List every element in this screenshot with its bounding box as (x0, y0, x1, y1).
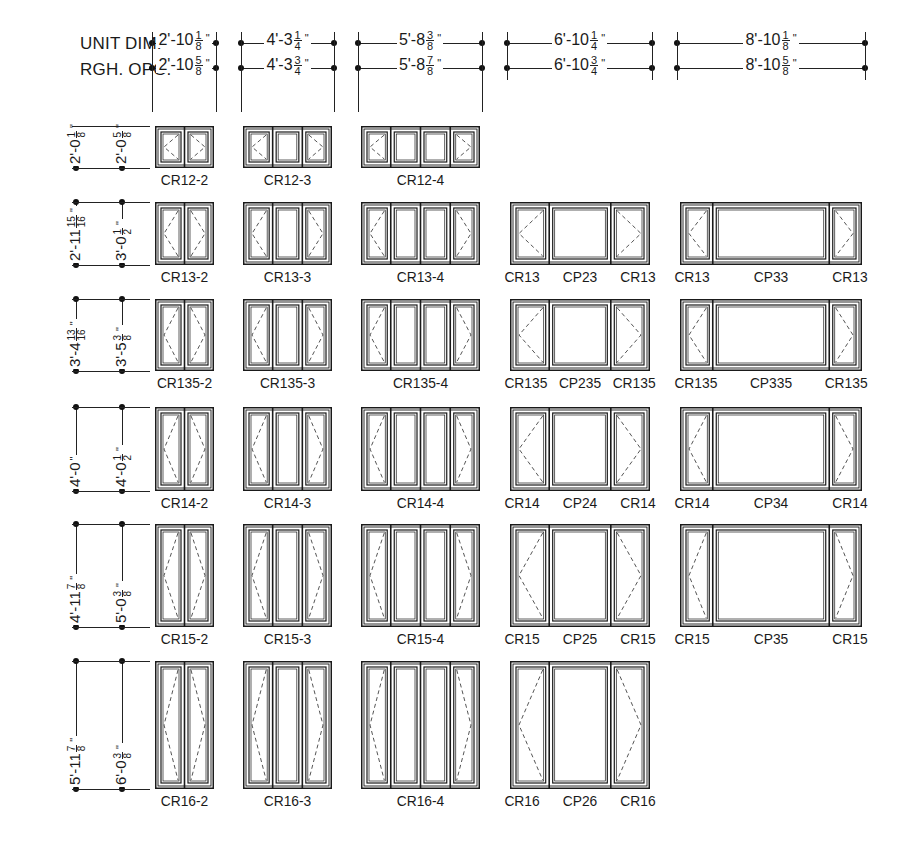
fraction-denominator: 8 (123, 131, 132, 139)
extension-line (72, 126, 150, 127)
extension-line (72, 168, 150, 169)
extension-line (358, 32, 359, 112)
window-elevation[interactable] (361, 202, 480, 265)
combination-window-elevation[interactable] (680, 524, 862, 627)
inch-mark: " (114, 447, 126, 451)
casement-unit-label: CR135 (812, 374, 867, 391)
casement-unit-label: CR14 (600, 494, 655, 511)
combination-window-elevation[interactable] (510, 407, 650, 491)
window-elevation[interactable] (155, 407, 214, 491)
fraction-denominator: 16 (77, 328, 86, 341)
window-elevation[interactable] (155, 299, 214, 371)
dimension-whole: 6'-10 (554, 31, 589, 48)
fraction-denominator: 8 (77, 583, 86, 591)
dimension-whole: 5'-8 (399, 31, 425, 48)
column-unit-dimension: 2'-1018" (152, 30, 216, 51)
window-elevation[interactable] (155, 126, 214, 168)
extension-line (152, 32, 153, 112)
window-elevation[interactable] (155, 524, 214, 627)
dimension-whole: 4'-11 (66, 591, 83, 623)
extension-line (216, 32, 217, 112)
extension-line (334, 32, 335, 112)
combination-window-elevation[interactable] (680, 202, 862, 265)
row-rough-dimension: 5'-038" (112, 581, 132, 625)
inch-mark: " (601, 32, 605, 44)
casement-unit-label: CR14 (674, 494, 729, 511)
window-elevation[interactable] (155, 202, 214, 265)
window-elevation[interactable] (243, 661, 332, 789)
window-elevation[interactable] (361, 407, 480, 491)
dimension-fraction: 58 (113, 131, 132, 139)
extension-line (72, 202, 150, 203)
combination-window-elevation[interactable] (510, 202, 650, 265)
row-rough-dimension: 2'-058" (112, 122, 132, 166)
inch-mark: " (68, 576, 80, 580)
combination-window-elevation[interactable] (510, 524, 650, 627)
combination-window-elevation[interactable] (510, 299, 650, 371)
extension-line (652, 32, 653, 80)
window-elevation[interactable] (243, 524, 332, 627)
window-model-label: CR14-2 (148, 494, 221, 511)
column-rough-dimension: 2'-1058" (152, 55, 216, 76)
inch-mark: " (114, 327, 126, 331)
casement-unit-label: CR13 (674, 268, 729, 285)
extension-line (72, 661, 150, 662)
inch-mark: " (793, 32, 797, 44)
window-elevation[interactable] (361, 299, 480, 371)
picture-unit-label: CP335 (743, 374, 798, 391)
window-elevation[interactable] (243, 126, 332, 168)
window-model-label: CR135-2 (148, 374, 221, 391)
column-unit-dimension: 6'-1014" (507, 30, 652, 51)
combination-window-elevation[interactable] (680, 407, 862, 491)
casement-unit-label: CR13 (600, 268, 655, 285)
dimension-whole: 2'-10 (158, 31, 193, 48)
casement-unit-label: CR16 (600, 792, 655, 809)
dimension-whole: 3'-5 (112, 342, 129, 367)
row-unit-dimension: 4'-0" (66, 455, 83, 489)
window-elevation[interactable] (243, 299, 332, 371)
window-elevation[interactable] (243, 407, 332, 491)
window-elevation[interactable] (361, 524, 480, 627)
dimension-whole: 4'-3 (266, 56, 292, 73)
dimension-text: 6'-1034" (552, 56, 607, 73)
dimension-fraction: 18 (195, 30, 203, 51)
combination-window-elevation[interactable] (510, 661, 650, 789)
dimension-whole: 5'-11 (66, 753, 83, 785)
dimension-whole: 3'-0 (112, 236, 129, 261)
fraction-denominator: 4 (590, 66, 598, 76)
extension-line (72, 407, 150, 408)
extension-line (241, 32, 242, 112)
row-rough-dimension: 3'-538" (112, 325, 132, 369)
fraction-denominator: 8 (782, 41, 790, 51)
dimension-text: 5'-878" (397, 56, 443, 73)
window-elevation[interactable] (361, 661, 480, 789)
window-model-label: CR16-3 (237, 792, 337, 809)
dimension-fraction: 38 (113, 334, 132, 342)
inch-mark: " (114, 583, 126, 587)
dimension-fraction: 38 (113, 590, 132, 598)
window-elevation[interactable] (243, 202, 332, 265)
dimension-text: 4'-1178" (66, 574, 83, 625)
casement-unit-label: CR14 (504, 494, 559, 511)
extension-line (865, 32, 866, 80)
casement-unit-label: CR15 (812, 630, 867, 647)
dimension-text: 6'-038" (112, 743, 129, 787)
extension-line (72, 789, 150, 790)
inch-mark: " (601, 57, 605, 69)
fraction-denominator: 8 (77, 745, 86, 753)
combination-window-elevation[interactable] (680, 299, 862, 371)
extension-line (677, 32, 678, 80)
inch-mark: " (68, 321, 80, 325)
inch-mark: " (793, 57, 797, 69)
fraction-denominator: 2 (123, 454, 132, 462)
window-elevation[interactable] (155, 661, 214, 789)
window-model-label: CR14-4 (357, 494, 485, 511)
window-elevation[interactable] (361, 126, 480, 168)
extension-line (72, 627, 150, 628)
dimension-text: 2'-1018" (156, 31, 211, 48)
inch-mark: " (114, 745, 126, 749)
dimension-fraction: 34 (294, 55, 302, 76)
row-rough-dimension: 6'-038" (112, 743, 132, 787)
extension-line (72, 265, 150, 266)
window-model-label: CR13-4 (357, 268, 485, 285)
